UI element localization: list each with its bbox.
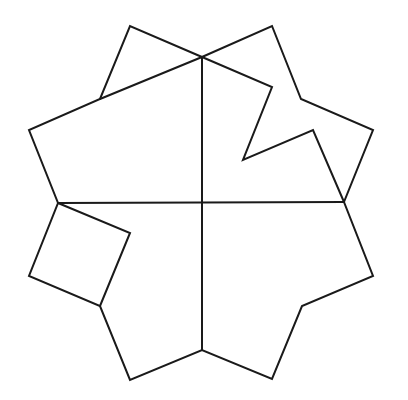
square-cut bbox=[58, 203, 130, 306]
zigzag-cut bbox=[202, 57, 344, 202]
dissection-diagram bbox=[0, 0, 408, 400]
horizontal-cut bbox=[58, 202, 344, 203]
